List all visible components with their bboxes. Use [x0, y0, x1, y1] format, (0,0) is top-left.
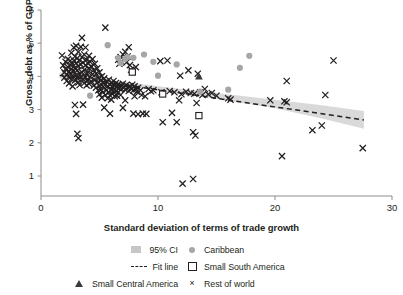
ci-band-swatch-icon — [128, 244, 144, 255]
data-point-circle — [150, 59, 156, 65]
data-point-x — [177, 73, 183, 79]
data-point-x — [284, 78, 290, 84]
data-point-x — [59, 52, 65, 58]
data-point-x — [190, 129, 196, 135]
y-axis-label: Gross debt as % of GDP — [23, 0, 34, 133]
data-point-x — [309, 127, 315, 133]
data-point-x — [73, 111, 79, 117]
legend-item-95-ci: 95% CI — [0, 244, 184, 255]
legend-label: Small South America — [204, 262, 285, 272]
data-point-circle — [237, 65, 243, 71]
x-marker-icon: × — [184, 278, 200, 289]
legend-item-fit-line: Fit line — [0, 261, 184, 272]
data-point-circle — [130, 55, 136, 61]
circle-marker-icon — [184, 244, 200, 255]
data-point-x — [322, 92, 328, 98]
legend-item-small-central-america: Small Central America — [0, 278, 184, 289]
data-point-circle — [141, 51, 147, 57]
data-point-x — [180, 181, 186, 187]
data-point-x — [82, 44, 88, 50]
data-point-circle — [87, 93, 93, 99]
data-point-x — [74, 131, 80, 137]
chart-figure: 1234560102030 Gross debt as % of GDP Sta… — [0, 0, 403, 295]
data-point-circle — [125, 54, 131, 60]
x-axis-label: Standard deviation of terms of trade gro… — [0, 222, 403, 233]
chart-legend: 95% CI Caribbean Fit line Small South Am… — [0, 241, 403, 292]
data-point-x — [279, 153, 285, 159]
data-point-x — [157, 58, 163, 64]
data-point-x — [169, 110, 175, 116]
data-point-x — [99, 95, 105, 101]
x-tick-label: 0 — [38, 202, 43, 213]
data-point-x — [190, 176, 196, 182]
x-tick-label: 20 — [270, 202, 281, 213]
data-point-x — [102, 25, 108, 31]
legend-label: 95% CI — [149, 245, 178, 255]
data-point-x — [120, 105, 126, 111]
data-point-x — [160, 119, 166, 125]
legend-label: Small Central America — [92, 279, 178, 289]
data-point-x — [194, 100, 200, 106]
data-point-square — [196, 113, 202, 119]
data-point-x — [164, 57, 170, 63]
legend-row: Fit line Small South America — [0, 258, 403, 275]
data-point-x — [107, 111, 113, 117]
data-point-circle — [225, 87, 231, 93]
data-point-circle — [197, 89, 203, 95]
dashed-line-icon — [131, 261, 147, 272]
data-point-x — [101, 105, 107, 111]
y-tick-label: 1 — [29, 170, 34, 181]
y-tick-label: 2 — [29, 137, 34, 148]
data-point-x — [330, 57, 336, 63]
data-point-x — [319, 122, 325, 128]
triangle-marker-icon — [71, 278, 87, 289]
data-point-square — [160, 91, 166, 97]
data-point-x — [80, 102, 86, 108]
open-square-marker-icon — [184, 261, 200, 272]
legend-row: 95% CI Caribbean — [0, 241, 403, 258]
legend-label: Fit line — [152, 262, 178, 272]
data-point-x — [70, 83, 76, 89]
data-point-circle — [155, 73, 161, 79]
data-point-circle — [105, 42, 111, 48]
data-point-square — [129, 69, 135, 75]
x-tick-label: 30 — [387, 202, 398, 213]
data-point-circle — [246, 53, 252, 59]
x-tick-label: 10 — [153, 202, 164, 213]
legend-item-caribbean: Caribbean — [184, 244, 403, 255]
data-point-x — [126, 44, 132, 50]
data-point-x — [143, 111, 149, 117]
legend-item-rest-of-world: × Rest of world — [184, 278, 403, 289]
data-point-x — [176, 97, 182, 103]
data-point-x — [185, 67, 191, 73]
data-point-x — [75, 135, 81, 141]
data-point-x — [72, 102, 78, 108]
legend-row: Small Central America × Rest of world — [0, 275, 403, 292]
legend-label: Caribbean — [204, 245, 244, 255]
data-point-x — [174, 119, 180, 125]
data-point-x — [122, 97, 128, 103]
legend-label: Rest of world — [204, 279, 255, 289]
legend-item-small-south-america: Small South America — [184, 261, 403, 272]
data-point-x — [79, 35, 85, 41]
data-point-x — [360, 145, 366, 151]
data-point-x — [192, 132, 198, 138]
data-point-circle — [174, 61, 180, 67]
